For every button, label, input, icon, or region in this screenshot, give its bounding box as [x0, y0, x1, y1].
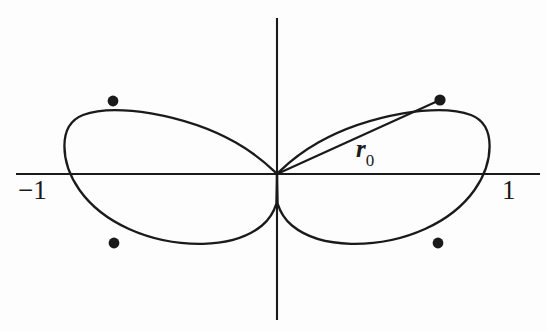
radius-annotation-label: r0: [356, 136, 374, 166]
lemniscate-right-loop: [277, 110, 490, 244]
lemniscate-left-loop: [64, 110, 277, 244]
radius-symbol: r: [356, 135, 366, 162]
radius-subscript: 0: [366, 151, 375, 170]
marker-bottom-right: [433, 238, 444, 249]
x-axis-tick-label-positive-one: 1: [502, 177, 516, 204]
x-axis-tick-label-negative-one: −1: [18, 177, 47, 204]
axes-group: [16, 18, 540, 320]
lemniscate-figure: −1 1 r0: [0, 0, 547, 332]
marker-bottom-left: [109, 238, 120, 249]
lemniscate-plot: [0, 0, 547, 332]
marker-top-right: [434, 94, 445, 105]
marker-top-left: [108, 96, 119, 107]
